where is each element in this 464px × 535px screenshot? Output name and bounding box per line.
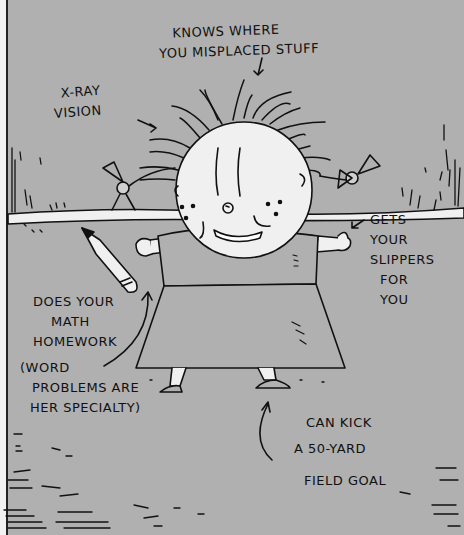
annotation-line: SLIPPERS xyxy=(370,250,435,270)
annotation-line: PROBLEMS ARE xyxy=(20,378,141,398)
annotation-homework: DOES YOUR MATH HOMEWORK xyxy=(33,292,117,352)
annotation-line: FOR xyxy=(370,270,435,290)
annotation-field-goal: CAN KICK A 50-YARD FIELD GOAL xyxy=(294,410,386,494)
annotation-word-problems: (WORD PROBLEMS ARE HER SPECIALTY) xyxy=(20,358,141,418)
annotation-line: (WORD xyxy=(20,358,141,378)
left-shoe xyxy=(160,386,182,392)
annotation-line: YOU xyxy=(370,290,435,310)
dress-skirt xyxy=(136,284,345,368)
head xyxy=(175,122,312,258)
right-leg xyxy=(258,368,276,380)
right-hand xyxy=(338,232,351,250)
annotation-line: FIELD GOAL xyxy=(294,468,386,494)
pencil xyxy=(82,228,137,292)
annotation-line: YOUR xyxy=(370,230,435,250)
left-bow xyxy=(103,162,175,210)
grass-right xyxy=(402,125,460,210)
annotation-line: VISION xyxy=(53,101,102,124)
annotation-line: A 50-YARD xyxy=(294,436,386,462)
annotation-xray: X-RAY VISION xyxy=(52,81,102,124)
annotation-line: GETS xyxy=(370,210,435,230)
annotation-slippers: GETS YOUR SLIPPERS FOR YOU xyxy=(370,210,435,310)
grass-left xyxy=(12,148,65,212)
right-shoe xyxy=(256,380,290,388)
left-leg xyxy=(170,368,186,386)
annotation-line: HOMEWORK xyxy=(33,332,117,352)
annotation-line: MATH xyxy=(33,312,117,332)
annotation-line: HER SPECIALTY) xyxy=(20,398,141,418)
annotation-line: DOES YOUR xyxy=(33,292,117,312)
left-hand xyxy=(136,239,152,256)
arrow-field-goal xyxy=(260,402,272,460)
arrow-xray xyxy=(138,120,156,132)
right-arm xyxy=(316,236,340,252)
annotation-line: CAN KICK xyxy=(294,410,386,436)
annotation-knows-where: KNOWS WHERE YOU MISPLACED STUFF xyxy=(158,18,319,64)
